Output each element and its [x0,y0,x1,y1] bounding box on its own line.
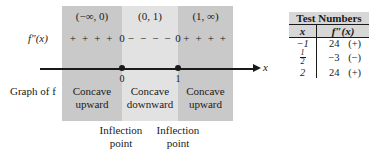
tick-dot-0 [119,65,125,71]
test-number-value-2: 24 (+) [317,67,369,78]
tick-dot-1 [175,65,181,71]
inflection-point-callout-0-line1: Inflection [93,124,149,137]
concavity-sign-chart: (−∞, 0) (0, 1) (1, ∞) f″(x) + + + + 0 − … [0,0,375,157]
test-number-value-2-number: 24 [324,67,340,78]
tick-label-0: 0 [116,73,128,84]
table-row: 2 24 (+) [289,67,369,78]
test-numbers-table: Test Numbers x f″(x) −1 24 (+) [289,12,369,78]
interval-notation-2: (1, ∞) [178,10,233,23]
fraction-denominator: 2 [300,58,306,66]
test-number-x-2: 2 [289,67,317,78]
concavity-interval-1-line1: Concave [120,85,180,98]
concavity-interval-0: Concave upward [62,85,122,111]
sign-group-interval-1: − − − − [122,32,178,44]
sign-group-interval-0: + + + + [62,32,122,44]
test-number-value-1: −3 (−) [317,49,369,67]
test-number-value-0: 24 (+) [317,38,369,50]
inflection-point-callout-1-line2: point [150,137,206,150]
column-header-second-derivative: f″(x) [317,25,369,38]
tick-label-1: 1 [172,73,184,84]
inflection-point-callout-0-line2: point [93,137,149,150]
fraction-one-half: 1 2 [300,49,306,67]
concavity-interval-0-line2: upward [62,98,122,111]
axis-arrowhead-icon [253,64,261,72]
axis-variable-label: x [263,61,268,73]
column-header-x: x [289,25,317,38]
test-number-value-1-sign: (−) [342,52,361,63]
concavity-interval-2: Concave upward [178,85,233,111]
graph-of-f-row-label: Graph of f [10,85,56,97]
concavity-interval-2-line2: upward [178,98,233,111]
concavity-interval-2-line1: Concave [178,85,233,98]
test-number-value-0-number: 24 [324,38,340,49]
second-derivative-row-label: f″(x) [28,32,48,44]
test-number-value-0-sign: (+) [342,38,361,49]
sign-group-interval-2: + + + + [178,32,233,44]
interval-notation-1: (0, 1) [122,10,178,23]
concavity-interval-1: Concave downward [120,85,180,111]
table-row: 1 2 −3 (−) [289,49,369,67]
test-numbers-table-title: Test Numbers [289,12,369,25]
test-number-value-2-sign: (+) [342,67,361,78]
interval-notation-0: (−∞, 0) [62,10,122,23]
concavity-interval-0-line1: Concave [62,85,122,98]
inflection-point-callout-1-line1: Inflection [150,124,206,137]
concavity-interval-1-line2: downward [120,98,180,111]
inflection-point-callout-1: Inflection point [150,124,206,150]
test-number-x-1: 1 2 [289,49,317,67]
number-line-axis [40,68,255,70]
inflection-point-callout-0: Inflection point [93,124,149,150]
test-number-value-1-number: −3 [324,52,340,63]
